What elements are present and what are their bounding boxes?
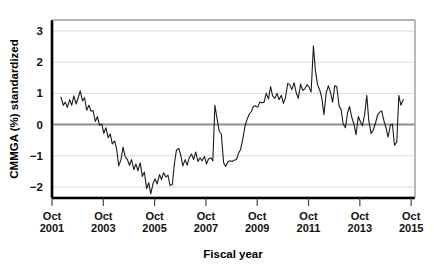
x-tick-label-year: 2013: [348, 222, 372, 234]
x-tick-label-month: Oct: [402, 210, 421, 222]
y-axis-tick-labels: 3210−1−2: [30, 25, 44, 193]
x-tick-label-year: 2009: [245, 222, 269, 234]
x-tick-label-month: Oct: [351, 210, 370, 222]
x-tick-label-month: Oct: [197, 210, 216, 222]
x-tick-label-year: 2003: [91, 222, 115, 234]
y-tick-label: 3: [37, 25, 43, 37]
y-tick-label: 1: [37, 87, 44, 99]
x-axis-title: Fiscal year: [203, 248, 263, 260]
x-tick-label-month: Oct: [145, 210, 164, 222]
line-chart: 3210−1−2 Oct2001Oct2003Oct2005Oct2007Oct…: [0, 0, 434, 269]
x-tick-label-month: Oct: [43, 210, 62, 222]
x-tick-label-year: 2007: [194, 222, 218, 234]
y-tick-label: 0: [37, 119, 43, 131]
x-tick-label-year: 2001: [40, 222, 64, 234]
figure-container: 3210−1−2 Oct2001Oct2003Oct2005Oct2007Oct…: [0, 0, 434, 269]
y-tick-label: −1: [30, 150, 44, 162]
x-axis-tick-labels: Oct2001Oct2003Oct2005Oct2007Oct2009Oct20…: [40, 210, 424, 234]
x-tick-label-month: Oct: [94, 210, 113, 222]
plot-background: [52, 20, 415, 198]
x-tick-label-year: 2005: [142, 222, 166, 234]
y-tick-label: 2: [37, 56, 43, 68]
x-tick-label-year: 2011: [297, 222, 321, 234]
y-axis-title: CMMGA (%) standardized: [8, 39, 20, 179]
x-tick-label-year: 2015: [399, 222, 423, 234]
x-tick-label-month: Oct: [248, 210, 267, 222]
y-tick-label: −2: [30, 181, 43, 193]
x-tick-label-month: Oct: [299, 210, 318, 222]
